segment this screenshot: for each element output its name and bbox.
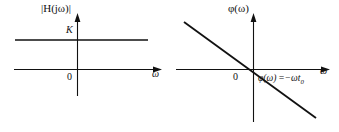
constant-k-label: K: [66, 25, 73, 35]
magnitude-y-axis-label: |H(jω)|: [41, 3, 71, 14]
magnitude-response-plot: |H(jω)| K 0 ω: [0, 0, 170, 132]
magnitude-x-axis: [14, 67, 162, 73]
phase-origin-label: 0: [233, 72, 238, 82]
phase-equation-main: φ(ω) =−ωt: [258, 73, 300, 83]
phase-x-axis-label: ω: [320, 66, 327, 76]
phase-equation-subscript: 0: [300, 78, 303, 85]
magnitude-origin-label: 0: [67, 72, 72, 82]
phase-plot-canvas: [170, 0, 339, 132]
figure-two-plots: |H(jω)| K 0 ω φ(ω) 0 φ(ω) =−ωt0 ω: [0, 0, 339, 132]
magnitude-plot-canvas: [0, 0, 170, 132]
phase-y-axis: [251, 13, 257, 122]
phase-response-plot: φ(ω) 0 φ(ω) =−ωt0 ω: [170, 0, 339, 132]
phase-equation-annotation: φ(ω) =−ωt0: [258, 74, 304, 86]
magnitude-y-axis: [75, 13, 81, 96]
magnitude-x-axis-label: ω: [152, 69, 159, 79]
phase-y-axis-label: φ(ω): [228, 3, 249, 14]
